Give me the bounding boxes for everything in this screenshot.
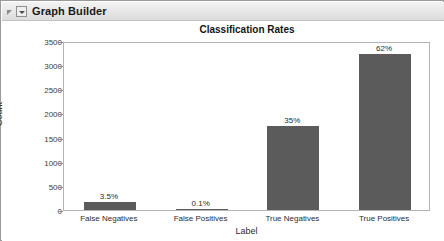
bar[interactable] bbox=[84, 202, 136, 210]
graph-builder-window: Graph Builder Classification Rates Count… bbox=[0, 0, 444, 241]
x-tick-label: False Negatives bbox=[80, 214, 137, 223]
y-tick-mark bbox=[59, 211, 63, 212]
bar[interactable] bbox=[359, 54, 411, 210]
bar-value-label: 3.5% bbox=[100, 192, 118, 201]
y-axis-title: Count bbox=[0, 102, 4, 126]
x-axis-title: Label bbox=[63, 226, 430, 236]
x-tick-label: True Positives bbox=[359, 214, 409, 223]
window-title: Graph Builder bbox=[32, 5, 107, 17]
plot-area bbox=[63, 42, 430, 211]
bar[interactable] bbox=[267, 126, 319, 211]
triangle-collapse-icon[interactable] bbox=[7, 10, 12, 15]
bar-value-label: 0.1% bbox=[192, 199, 210, 208]
bar-value-label: 62% bbox=[376, 44, 392, 53]
x-tick-label: False Positives bbox=[174, 214, 228, 223]
chart-title: Classification Rates bbox=[64, 24, 430, 35]
chevron-down-icon[interactable] bbox=[16, 6, 27, 17]
x-tick-label: True Negatives bbox=[265, 214, 319, 223]
chart-canvas: Classification Rates Count 0500100015002… bbox=[2, 21, 444, 241]
bar[interactable] bbox=[176, 209, 228, 210]
bar-value-label: 35% bbox=[284, 116, 300, 125]
window-title-bar[interactable]: Graph Builder bbox=[2, 2, 444, 21]
